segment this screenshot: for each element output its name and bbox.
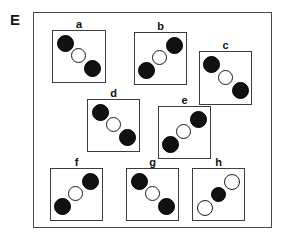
circle-a-top-left-filled [57, 35, 74, 52]
circle-e-center-open [176, 124, 191, 139]
circle-g-center-open [145, 186, 160, 201]
subpanel-label-b: b [135, 20, 186, 32]
circle-c-bottom-right-filled [232, 82, 249, 99]
circle-c-center-open [218, 70, 233, 85]
circle-h-top-right-open [224, 174, 240, 190]
circle-h-bottom-left-open [197, 200, 213, 216]
circle-b-bottom-left-filled [138, 62, 155, 79]
circle-d-top-left-filled [92, 104, 109, 121]
circle-c-top-left-filled [203, 56, 220, 73]
subpanel-b: b [134, 32, 187, 85]
circle-d-center-open [106, 117, 121, 132]
subpanel-label-f: f [51, 156, 102, 168]
subpanel-f: f [50, 168, 103, 221]
subpanel-a: a [52, 30, 106, 83]
subpanel-e: e [158, 106, 211, 159]
panel-letter-label: E [10, 12, 20, 27]
circle-b-center-open [152, 50, 167, 65]
subpanel-label-a: a [53, 18, 105, 30]
circle-f-top-right-filled [82, 173, 99, 190]
subpanel-label-d: d [88, 87, 139, 99]
circle-e-bottom-left-filled [162, 136, 179, 153]
circle-g-top-left-filled [131, 173, 148, 190]
subpanel-label-e: e [159, 94, 210, 106]
subpanel-label-g: g [127, 156, 178, 168]
subpanel-h: h [192, 168, 245, 221]
circle-d-bottom-right-filled [119, 129, 136, 146]
subpanel-label-c: c [200, 39, 251, 51]
subpanel-d: d [87, 99, 140, 152]
circle-a-center-open [71, 48, 86, 63]
circle-f-center-open [68, 186, 83, 201]
subpanel-g: g [126, 168, 179, 221]
circle-h-center-filled [211, 187, 226, 202]
circle-e-top-right-filled [190, 111, 207, 128]
circle-a-bottom-right-filled [84, 60, 101, 77]
circle-f-bottom-left-filled [54, 198, 71, 215]
subpanel-label-h: h [193, 156, 244, 168]
circle-b-top-right-filled [166, 37, 183, 54]
circle-g-bottom-right-filled [158, 198, 175, 215]
figure-panel-e: E abcdefgh [0, 0, 286, 238]
